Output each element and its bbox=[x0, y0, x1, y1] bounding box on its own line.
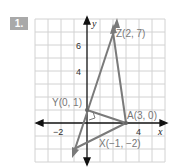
y-axis-label: y bbox=[91, 18, 97, 29]
point-y bbox=[85, 108, 89, 112]
tick-neg2: −2 bbox=[53, 127, 63, 137]
label-z: Z(2, 7) bbox=[116, 28, 145, 39]
x-axis-label: x bbox=[157, 126, 163, 137]
label-x: X(−1, −2) bbox=[99, 138, 141, 149]
label-y: Y(0, 1) bbox=[52, 97, 82, 108]
x-axis-left-arrow-icon bbox=[36, 120, 43, 126]
y-axis-up-arrow-icon bbox=[84, 17, 90, 24]
label-a: A(3, 0) bbox=[127, 110, 157, 121]
tick-6: 6 bbox=[76, 41, 81, 51]
y-axis-down-arrow-icon bbox=[84, 158, 90, 165]
tick-4y: 4 bbox=[76, 67, 81, 77]
coordinate-plane: Z(2, 7) Y(0, 1) A(3, 0) X(−1, −2) −2 4 6… bbox=[0, 0, 172, 168]
tick-4: 4 bbox=[136, 127, 141, 137]
point-a bbox=[124, 121, 128, 125]
